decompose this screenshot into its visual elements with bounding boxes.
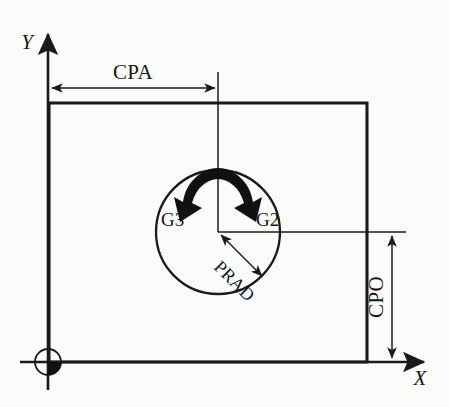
cpo-dimension-label: CPO (364, 276, 388, 318)
cpa-dimension: CPA (52, 60, 215, 88)
diagram-canvas: CPA CPO PRAD G3 G2 Y X (0, 0, 449, 407)
y-axis-label: Y (21, 30, 35, 54)
technical-drawing: CPA CPO PRAD G3 G2 Y X (0, 0, 449, 407)
prad-dimension-label: PRAD (210, 257, 259, 306)
x-axis-label: X (413, 366, 428, 390)
arc-direction-labels: G3 G2 (161, 209, 279, 230)
cpa-dimension-label: CPA (113, 60, 154, 84)
g2-label: G2 (256, 209, 279, 230)
g3-label: G3 (161, 209, 184, 230)
